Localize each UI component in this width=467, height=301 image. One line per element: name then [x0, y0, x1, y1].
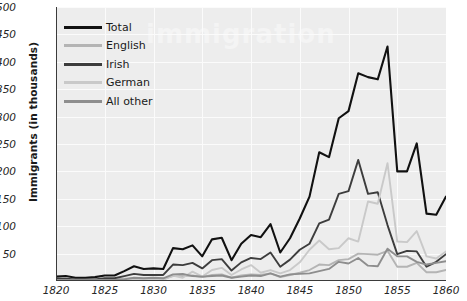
legend-swatch-icon	[64, 26, 102, 29]
y-tick-value: 500	[0, 1, 16, 13]
x-tick-label: 1855	[373, 284, 421, 296]
legend-item-label: All other	[106, 95, 152, 108]
legend-item-irish[interactable]: Irish	[64, 56, 152, 73]
y-tick-value: 400	[0, 56, 16, 68]
y-tick-label: 250	[0, 138, 16, 150]
x-tick-label: 1825	[81, 284, 129, 296]
y-tick-value: 250	[0, 138, 16, 150]
legend-swatch-icon	[64, 44, 102, 47]
legend-item-all-other[interactable]: All other	[64, 93, 152, 110]
legend-swatch-icon	[64, 63, 102, 66]
legend-swatch-icon	[64, 81, 102, 84]
x-tick-label: 1845	[276, 284, 324, 296]
legend-item-label: Irish	[106, 58, 130, 71]
x-tick-label: 1830	[130, 284, 178, 296]
series-line-irish	[56, 160, 446, 279]
y-tick-label: 50	[0, 248, 16, 260]
y-tick-label: 150	[0, 193, 16, 205]
y-tick-value: 300	[0, 111, 16, 123]
chart-legend: TotalEnglishIrishGermanAll other	[64, 19, 152, 110]
y-tick-label: 450	[0, 28, 16, 40]
x-tick-label: 1840	[227, 284, 275, 296]
legend-item-label: German	[106, 76, 150, 89]
y-tick-value: 50	[3, 248, 16, 260]
y-tick-label: 500	[0, 1, 16, 13]
y-tick-value: 350	[0, 83, 16, 95]
y-tick-label: 200	[0, 165, 16, 177]
x-tick-label: 1860	[422, 284, 467, 296]
x-tick-label: 1820	[32, 284, 80, 296]
y-tick-label: 100	[0, 220, 16, 232]
immigration-line-chart: Immigrants (in thousands) immigration 50…	[0, 0, 467, 301]
legend-item-label: Total	[106, 21, 132, 34]
x-tick-label: 1835	[178, 284, 226, 296]
y-tick-label: 300	[0, 111, 16, 123]
legend-item-english[interactable]: English	[64, 38, 152, 55]
y-tick-value: 100	[0, 220, 16, 232]
legend-swatch-icon	[64, 100, 102, 103]
y-tick-value: 200	[0, 165, 16, 177]
y-tick-value: 450	[0, 28, 16, 40]
legend-item-german[interactable]: German	[64, 75, 152, 92]
y-tick-label: 400	[0, 56, 16, 68]
y-axis-title: Immigrants (in thousands)	[27, 27, 39, 217]
legend-item-label: English	[106, 39, 146, 52]
y-tick-label: 350	[0, 83, 16, 95]
y-tick-value: 150	[0, 193, 16, 205]
legend-item-total[interactable]: Total	[64, 19, 152, 36]
x-tick-label: 1850	[325, 284, 373, 296]
